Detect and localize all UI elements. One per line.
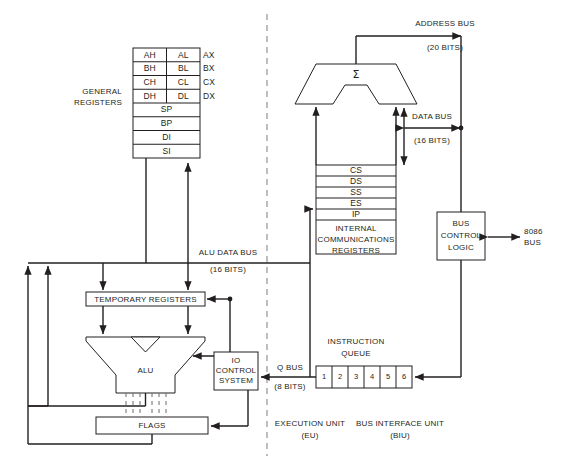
general-registers-label-line1: GENERAL [82, 87, 122, 96]
register-cell-ah: AH [144, 50, 156, 60]
register-cell-dh: DH [144, 91, 156, 101]
general-registers-label-line2: REGISTERS [74, 98, 122, 107]
instruction-queue-label-line1: INSTRUCTION [328, 337, 385, 346]
q-bus-width: (8 BITS) [274, 382, 306, 391]
general-registers-bus-connection [146, 158, 188, 263]
register-cell-bl: BL [178, 63, 189, 73]
queue-cell-6: 6 [402, 372, 406, 381]
register-cell-si: SI [162, 146, 170, 156]
alu-data-bus-label: ALU DATA BUS [199, 248, 258, 257]
bus-control-logic-line2: CONTROL [441, 231, 482, 240]
temporary-registers-label: TEMPORARY REGISTERS [94, 295, 197, 304]
junction-dot-databus [459, 126, 464, 131]
icr-row-ip: IP [352, 209, 360, 219]
register-cell-bp: BP [161, 118, 173, 128]
alu-data-bus-width: (16 BITS) [210, 265, 246, 274]
8086-cpu-block-diagram: GENERAL REGISTERS AH AL AX BH BL BX CH C… [0, 0, 572, 470]
external-bus-line1: 8086 [524, 227, 543, 236]
address-bus-label: ADDRESS BUS [415, 19, 475, 28]
register-cell-di: DI [162, 132, 171, 142]
adder-sigma-symbol: Σ [353, 68, 360, 81]
icr-row-ds: DS [350, 176, 362, 186]
icr-label-line3: REGISTERS [332, 246, 380, 255]
icr-row-cs: CS [350, 165, 362, 175]
register-name-cx: CX [203, 77, 215, 87]
io-control-line2: CONTROL [216, 366, 257, 375]
address-bus-width: (20 BITS) [427, 43, 463, 52]
icr-label-line1: INTERNAL [335, 224, 377, 233]
io-control-line3: SYSTEM [219, 376, 253, 385]
io-control-line1: IO [232, 356, 241, 365]
register-cell-cl: CL [178, 77, 189, 87]
icr-row-es: ES [350, 198, 362, 208]
register-cell-al: AL [178, 50, 189, 60]
queue-cell-5: 5 [386, 372, 390, 381]
instruction-queue-block [316, 366, 412, 388]
register-cell-dl: DL [178, 91, 189, 101]
queue-cell-3: 3 [354, 372, 358, 381]
flags-label: FLAGS [138, 421, 165, 430]
external-bus-line2: BUS [524, 238, 541, 247]
queue-cell-2: 2 [338, 372, 342, 381]
alu-label: ALU [137, 366, 153, 375]
q-bus-label: Q BUS [277, 363, 303, 372]
register-name-ax: AX [203, 50, 215, 60]
queue-cell-1: 1 [322, 372, 326, 381]
icr-label-line2: COMMUNICATIONS [318, 235, 395, 244]
register-cell-ch: CH [144, 77, 156, 87]
instruction-queue-label-line2: QUEUE [341, 349, 370, 358]
queue-cell-4: 4 [370, 372, 374, 381]
register-cell-bh: BH [144, 63, 156, 73]
execution-unit-label-line2: (EU) [301, 431, 318, 440]
diagram-canvas: GENERAL REGISTERS AH AL AX BH BL BX CH C… [0, 0, 572, 470]
bus-control-logic-line1: BUS [452, 219, 469, 228]
execution-unit-label-line1: EXECUTION UNIT [275, 419, 345, 428]
register-cell-sp: SP [161, 104, 173, 114]
register-name-bx: BX [203, 63, 215, 73]
biu-label-line2: (BIU) [390, 431, 410, 440]
biu-label-line1: BUS INTERFACE UNIT [356, 419, 444, 428]
bus-control-logic-line3: LOGIC [448, 243, 474, 252]
register-name-dx: DX [203, 91, 215, 101]
data-bus-width: (16 BITS) [414, 136, 450, 145]
data-bus-label: DATA BUS [412, 112, 452, 121]
icr-row-ss: SS [350, 187, 362, 197]
